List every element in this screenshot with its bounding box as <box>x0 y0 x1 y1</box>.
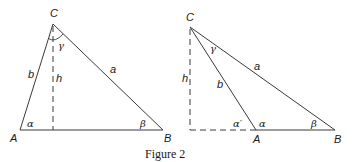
left-angle-gamma-label: γ <box>58 40 64 51</box>
right-vertex-c-label: C <box>186 11 194 23</box>
left-vertex-c-label: C <box>50 7 58 19</box>
left-side-b-label: b <box>28 68 34 80</box>
left-triangle: C A B b a h γ α β <box>9 7 171 144</box>
right-angle-gamma-label: γ <box>210 43 216 54</box>
right-triangle: C A B b a h γ α′ α β <box>182 11 341 145</box>
left-vertex-a-label: A <box>9 132 17 144</box>
left-vertex-b-label: B <box>164 132 171 144</box>
left-angle-beta-label: β <box>139 118 146 129</box>
right-side-b-label: b <box>217 78 223 90</box>
left-side-a-label: a <box>110 63 116 75</box>
left-side-a <box>53 24 163 130</box>
left-altitude-h-label: h <box>56 72 62 84</box>
right-side-a-label: a <box>254 60 260 72</box>
right-angle-beta-label: β <box>310 118 317 129</box>
figure-canvas: C A B b a h γ α β C A B b a h γ α′ α β F… <box>0 0 357 162</box>
right-vertex-a-label: A <box>252 133 260 145</box>
right-vertex-b-label: B <box>334 133 341 145</box>
right-angle-alpha-label: α <box>259 118 266 129</box>
figure-caption: Figure 2 <box>145 147 185 161</box>
right-altitude-h-label: h <box>182 72 188 84</box>
right-angle-alpha-prime-label: α′ <box>233 118 243 129</box>
left-angle-alpha-label: α <box>27 118 34 129</box>
left-side-b <box>20 24 53 130</box>
